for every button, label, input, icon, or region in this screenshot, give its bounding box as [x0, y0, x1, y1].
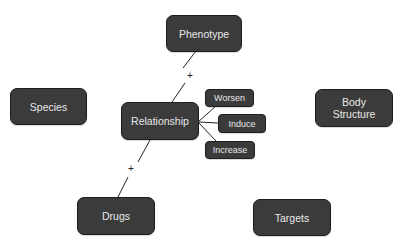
node-induce-label: Induce [228, 119, 255, 129]
node-increase-label: Increase [213, 145, 248, 155]
edge-relationship-drugs-upper [138, 140, 150, 162]
node-body-structure[interactable]: Body Structure [315, 89, 393, 127]
node-drugs-label: Drugs [102, 210, 130, 222]
node-increase[interactable]: Increase [205, 141, 255, 159]
node-phenotype-label: Phenotype [179, 28, 229, 40]
edge-relationship-increase [198, 122, 216, 141]
node-species-label: Species [30, 101, 67, 113]
node-targets-label: Targets [275, 212, 309, 224]
node-worsen[interactable]: Worsen [205, 89, 254, 107]
node-body-structure-label-line2: Structure [333, 108, 376, 120]
node-targets[interactable]: Targets [253, 199, 331, 236]
node-phenotype[interactable]: Phenotype [166, 15, 242, 52]
node-body-structure-label-line1: Body [342, 96, 366, 108]
node-relationship[interactable]: Relationship [121, 102, 199, 140]
edge-relationship-drugs-lower [118, 177, 128, 197]
node-drugs[interactable]: Drugs [77, 197, 155, 235]
node-induce[interactable]: Induce [218, 114, 266, 133]
edge-label-plus-phenotype: + [185, 71, 195, 81]
node-worsen-label: Worsen [214, 93, 245, 103]
edge-phenotype-relationship-lower [172, 83, 185, 102]
node-species[interactable]: Species [10, 88, 87, 125]
node-relationship-label: Relationship [131, 115, 189, 127]
edge-relationship-worsen [198, 106, 216, 122]
edge-label-plus-drugs: + [126, 164, 136, 174]
edge-phenotype-relationship-upper [183, 51, 196, 68]
edge-relationship-induce [198, 122, 218, 123]
